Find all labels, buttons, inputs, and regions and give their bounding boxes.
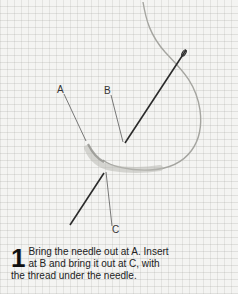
step-text: Bring the needle out at A. Insert at B a… — [11, 246, 169, 281]
leader-line-c — [106, 172, 112, 226]
embroidery-illustration: A B C 1 Bring the needle out at A. Inser… — [0, 0, 238, 294]
label-c: C — [112, 224, 119, 235]
thread — [103, 2, 201, 170]
leader-line-a — [64, 94, 86, 141]
needle-lower — [70, 173, 104, 225]
leader-line-b — [111, 95, 123, 142]
needle-upper — [125, 50, 186, 143]
step-number: 1 — [11, 247, 25, 269]
label-b: B — [104, 85, 111, 96]
label-a: A — [57, 84, 64, 95]
step-caption: 1 Bring the needle out at A. Insert at B… — [11, 246, 171, 282]
